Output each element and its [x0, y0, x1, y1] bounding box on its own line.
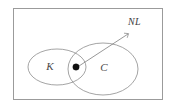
pointer-label-nl: NL — [127, 16, 141, 27]
figure-canvas: K C NL — [0, 0, 175, 108]
set-label-c: C — [100, 61, 108, 73]
venn-diagram-figure: K C NL — [0, 0, 175, 108]
intersection-point-dot — [73, 64, 79, 70]
set-label-k: K — [45, 60, 54, 72]
